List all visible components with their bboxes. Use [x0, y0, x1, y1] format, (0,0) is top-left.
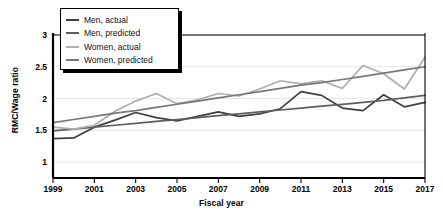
y-tick-label-2.5: 2.5	[21, 62, 47, 72]
legend-swatch-icon-2	[66, 46, 79, 48]
x-axis-title: Fiscal year	[0, 198, 443, 208]
legend-swatch-icon-1	[66, 32, 79, 34]
legend-label-1: Men, predicted	[84, 29, 140, 38]
legend-item-0[interactable]: Men, actual	[66, 13, 173, 27]
y-tick-label-2: 2	[21, 94, 47, 104]
chart-figure: RMC/Wage ratio Fiscal year 11.522.53 199…	[0, 0, 443, 217]
legend-item-3[interactable]: Women, predicted	[66, 54, 173, 68]
x-tick-label-2003: 2003	[116, 184, 156, 194]
x-tick-label-2017: 2017	[405, 184, 443, 194]
x-tick-label-2005: 2005	[157, 184, 197, 194]
x-tick-label-2013: 2013	[322, 184, 362, 194]
x-tick-label-2011: 2011	[281, 184, 321, 194]
legend-label-2: Women, actual	[84, 43, 141, 52]
legend-swatch-icon-3	[66, 59, 79, 61]
legend-swatch-icon-0	[66, 19, 79, 21]
x-tick-label-2001: 2001	[74, 184, 114, 194]
legend-item-1[interactable]: Men, predicted	[66, 27, 173, 41]
chart-legend: Men, actualMen, predictedWomen, actualWo…	[60, 8, 179, 70]
y-axis-title: RMC/Wage ratio	[10, 55, 20, 145]
x-tick-label-2015: 2015	[364, 184, 404, 194]
y-tick-label-1.5: 1.5	[21, 125, 47, 135]
legend-label-3: Women, predicted	[84, 56, 153, 65]
x-tick-label-2007: 2007	[198, 184, 238, 194]
series-line-1	[53, 95, 425, 131]
y-tick-label-3: 3	[21, 30, 47, 40]
legend-item-2[interactable]: Women, actual	[66, 40, 173, 54]
x-tick-label-2009: 2009	[240, 184, 280, 194]
x-tick-label-1999: 1999	[33, 184, 73, 194]
y-tick-label-1: 1	[21, 157, 47, 167]
legend-label-0: Men, actual	[84, 16, 128, 25]
